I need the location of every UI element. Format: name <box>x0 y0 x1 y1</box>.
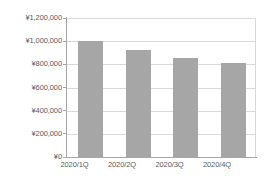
y-axis-tick-label: ¥1,000,000 <box>2 36 62 45</box>
x-axis-tick-label-2020-2q: 2020/2Q <box>103 160 141 169</box>
bar-2020-3q[interactable] <box>173 58 198 157</box>
x-axis-line <box>66 157 257 158</box>
y-axis-tick-label: ¥0 <box>2 152 62 161</box>
x-axis-tick-label-2020-4q: 2020/4Q <box>198 160 236 169</box>
bar-2020-2q[interactable] <box>126 50 151 157</box>
bars-layer <box>66 18 256 157</box>
bar-2020-4q[interactable] <box>221 63 246 157</box>
y-axis-tick-label: ¥600,000 <box>2 83 62 92</box>
y-axis-tick-label: ¥800,000 <box>2 59 62 68</box>
y-axis-tick-label: ¥400,000 <box>2 106 62 115</box>
y-axis-tick-label: ¥1,200,000 <box>2 13 62 22</box>
y-tick-mark <box>63 157 66 158</box>
x-axis-tick-label-2020-3q: 2020/3Q <box>151 160 189 169</box>
bar-chart: ¥1,200,000 ¥1,000,000 ¥800,000 ¥600,000 … <box>0 0 267 183</box>
bar-2020-1q[interactable] <box>78 41 103 157</box>
x-axis-tick-label-2020-1q: 2020/1Q <box>56 160 94 169</box>
y-axis-tick-label: ¥200,000 <box>2 129 62 138</box>
